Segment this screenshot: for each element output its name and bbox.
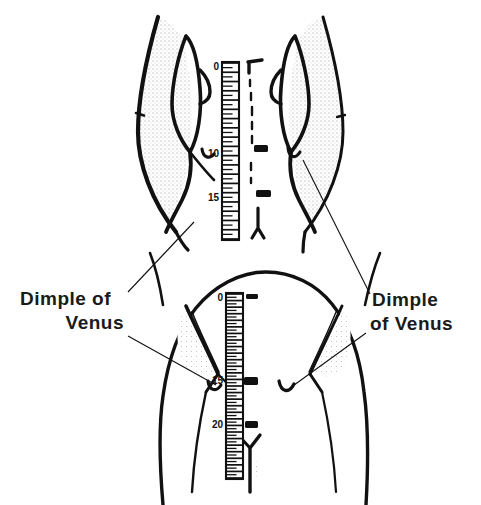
upper-ruler-tick-label-0: 0: [213, 61, 219, 72]
label-right-line1: Dimple: [372, 289, 438, 310]
label-right-line2: of Venus: [370, 313, 453, 334]
lower-ruler-tick-label-0: 0: [217, 292, 223, 303]
lower-spinous-mark-2: [244, 377, 258, 385]
label-left-line2: Venus: [66, 312, 124, 333]
lower-spinous-mark-3: [245, 421, 258, 428]
upper-ruler-tick-label-15: 15: [208, 192, 220, 203]
label-left-line1: Dimple of: [20, 288, 111, 309]
anatomical-diagram: 0 10 15: [0, 0, 481, 505]
upper-spinous-mark-2: [256, 190, 271, 197]
diagram-canvas: 0 10 15: [0, 0, 481, 505]
upper-spinous-mark-1: [254, 145, 268, 152]
lower-spinous-mark-1: [246, 294, 258, 299]
lower-ruler-tick-label-20: 20: [212, 419, 224, 430]
